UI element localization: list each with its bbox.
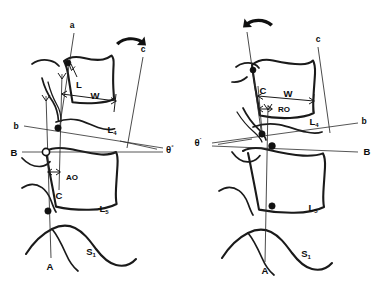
- label-A-left: A: [47, 261, 54, 272]
- s1-lower-contour-left: [52, 229, 78, 271]
- node-l5-superior-right: [269, 143, 276, 150]
- l5-posterior-element-right: [232, 152, 260, 162]
- node-l4-superior-left: [65, 60, 71, 66]
- label-l4-left: L4: [107, 124, 117, 136]
- node-l4-superior-right: [250, 67, 256, 73]
- measure-W-left: [62, 94, 116, 101]
- l5-s1-transition-right: [219, 187, 253, 215]
- label-c-right: c: [316, 34, 321, 44]
- node-l5-inferior-left: [45, 208, 51, 214]
- label-a-right: a: [245, 19, 250, 29]
- l4-posterior-lower-right: [232, 77, 247, 82]
- label-C-right: C: [260, 85, 267, 96]
- label-b-left: b: [13, 121, 18, 131]
- label-B-left: B: [11, 147, 18, 158]
- ref-line-b-left: [24, 126, 163, 148]
- angle-wedge-left: [120, 141, 157, 149]
- figure-root: a c b B A C L W AO L4 L5 S1 θ°: [0, 0, 389, 303]
- plumb-line-A-right: [265, 105, 268, 262]
- l4-body-outline-left: [64, 56, 114, 104]
- label-theta-right: θ´: [194, 137, 201, 148]
- label-A-right: A: [262, 265, 269, 276]
- left-panel: a c b B A C L W AO L4 L5 S1 θ°: [11, 20, 175, 272]
- s1-sacrum-outline-left: [26, 226, 136, 266]
- axis-line-c-right: [318, 47, 330, 133]
- label-a-left: a: [70, 20, 75, 30]
- label-W-left: W: [91, 90, 100, 101]
- label-RO-right: RO: [278, 105, 290, 114]
- label-l5-left: L5: [99, 203, 109, 215]
- label-B-right: B: [364, 146, 371, 157]
- ref-line-B-right: [212, 146, 358, 152]
- label-W-right: W: [284, 88, 293, 99]
- label-c-left: c: [141, 44, 146, 54]
- spine-measurement-diagram: a c b B A C L W AO L4 L5 S1 θ°: [0, 0, 389, 303]
- label-l4-right: L4: [309, 116, 319, 128]
- l5-posterior-element-left: [22, 158, 50, 166]
- label-theta-left: θ°: [166, 144, 174, 155]
- label-s1-right: S1: [301, 248, 311, 260]
- s1-sacrum-outline-right: [222, 230, 332, 270]
- right-panel: a c b B A C W RO L4 L5 S1 θ´: [194, 19, 370, 277]
- l4-lamina-curve-left: [48, 82, 61, 122]
- l4-inferior-endplate-left: [56, 119, 115, 129]
- node-l4-inferior-left: [55, 125, 61, 131]
- label-L-left: L: [76, 79, 82, 90]
- node-l5-inferior-right: [269, 203, 275, 209]
- l5-s1-transition-left: [22, 184, 56, 212]
- label-AO-left: AO: [66, 173, 78, 182]
- label-b-right: b: [361, 116, 366, 126]
- label-l5-right: L5: [308, 202, 318, 214]
- l4-posterior-element-left: [32, 60, 59, 66]
- node-l4-inferior-right: [259, 131, 265, 137]
- axis-line-c-left: [127, 57, 143, 148]
- label-C-left: C: [56, 190, 63, 201]
- node-l5-superior-left: [42, 148, 49, 155]
